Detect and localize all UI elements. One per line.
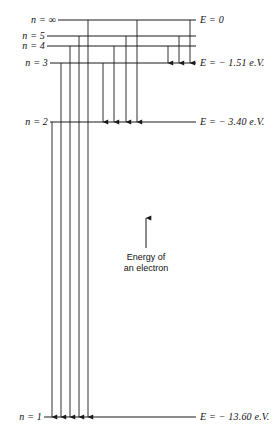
annotation-line-1: Energy of	[86, 252, 206, 263]
energy-level-lines	[44, 20, 196, 417]
energy-label-n-3: E = − 1.51 e.V.	[200, 57, 264, 68]
energy-label-n-1: E = − 13.60 e.V.	[200, 411, 270, 422]
level-label-n-∞: n = ∞	[0, 14, 56, 25]
energy-label-n-2: E = − 3.40 e.V.	[200, 116, 264, 127]
level-label-n-1: n = 1	[0, 411, 42, 422]
transition-arrows	[52, 20, 190, 417]
annotation-line-2: an electron	[86, 263, 206, 274]
energy-of-an-electron-label: Energy ofan electron	[86, 252, 206, 274]
level-label-n-2: n = 2	[0, 116, 48, 127]
level-label-n-4: n = 4	[0, 40, 45, 51]
energy-level-diagram: n = ∞n = 5n = 4n = 3n = 2n = 1 E = 0E = …	[0, 0, 278, 441]
level-label-n-3: n = 3	[0, 57, 48, 68]
energy-label-n-∞: E = 0	[200, 14, 224, 25]
